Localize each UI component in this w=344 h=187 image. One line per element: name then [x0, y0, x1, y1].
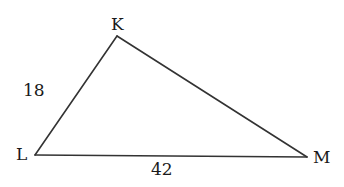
side-length-lm: 42	[151, 161, 173, 178]
vertex-label-k: K	[111, 16, 124, 33]
vertex-label-m: M	[313, 149, 330, 166]
side-lm	[35, 155, 307, 157]
side-length-kl: 18	[23, 82, 45, 99]
side-mk	[117, 36, 307, 157]
vertex-label-l: L	[16, 146, 27, 163]
side-kl	[35, 36, 117, 155]
